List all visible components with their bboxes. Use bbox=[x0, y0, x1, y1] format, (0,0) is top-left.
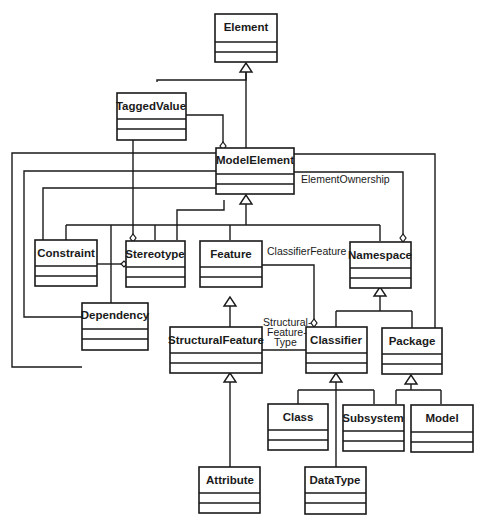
label-classifier-feature: ClassifierFeature bbox=[267, 245, 347, 257]
edge-taggedvalue-element bbox=[157, 70, 246, 82]
class-name: Namespace bbox=[348, 249, 412, 261]
class-structuralfeature[interactable]: StructuralFeature bbox=[168, 327, 264, 373]
class-attribute[interactable]: Attribute bbox=[199, 467, 260, 513]
class-name: Constraint bbox=[37, 247, 95, 259]
edge-modelelement-constraint bbox=[43, 188, 216, 240]
aggregation-diamond bbox=[400, 234, 406, 242]
class-constraint[interactable]: Constraint bbox=[35, 240, 97, 286]
class-name: Class bbox=[283, 411, 314, 423]
class-datatype[interactable]: DataType bbox=[305, 467, 366, 514]
class-class[interactable]: Class bbox=[268, 404, 328, 450]
class-name: Classifier bbox=[310, 334, 362, 346]
class-namespace[interactable]: Namespace bbox=[348, 242, 412, 288]
class-subsystem[interactable]: Subsystem bbox=[342, 405, 404, 451]
class-name: Attribute bbox=[206, 474, 254, 486]
generalization-arrow-element bbox=[240, 63, 252, 72]
class-feature[interactable]: Feature bbox=[200, 241, 262, 287]
edge-taggedvalue-modelelement bbox=[186, 115, 223, 143]
class-name: ModelElement bbox=[216, 154, 294, 166]
edge-modelelement-stereotype bbox=[177, 200, 224, 240]
class-dependency[interactable]: Dependency bbox=[81, 303, 150, 350]
class-name: Dependency bbox=[81, 309, 150, 321]
generalization-arrow-modelelement bbox=[240, 195, 252, 204]
generalization-bus-modelelement bbox=[66, 204, 380, 225]
class-name: Package bbox=[389, 335, 436, 347]
generalization-bus-package bbox=[396, 384, 441, 404]
class-name: Feature bbox=[210, 248, 252, 260]
class-name: Model bbox=[425, 412, 458, 424]
label-element-ownership: ElementOwnership bbox=[301, 173, 390, 185]
class-classifier[interactable]: Classifier bbox=[306, 327, 367, 373]
class-name: TaggedValue bbox=[116, 100, 186, 112]
class-package[interactable]: Package bbox=[382, 328, 442, 374]
class-modelelement[interactable]: ModelElement bbox=[216, 148, 294, 194]
class-name: Subsystem bbox=[342, 412, 403, 424]
uml-class-diagram: Element TaggedValue ModelElement Constra… bbox=[0, 0, 484, 524]
label-structural-feature-type-3: Type bbox=[274, 336, 297, 348]
class-stereotype[interactable]: Stereotype bbox=[125, 241, 185, 287]
edge-classifier-feature bbox=[262, 265, 314, 322]
class-name: DataType bbox=[310, 474, 361, 486]
class-name: Element bbox=[224, 21, 269, 33]
class-element[interactable]: Element bbox=[215, 14, 277, 62]
class-model[interactable]: Model bbox=[411, 405, 473, 452]
generalization-bus-namespace bbox=[336, 296, 412, 328]
generalization-arrow-structuralfeature bbox=[224, 373, 236, 382]
generalization-arrow-package bbox=[405, 375, 417, 384]
class-name: StructuralFeature bbox=[168, 334, 264, 346]
generalization-arrow-classifier bbox=[330, 373, 342, 382]
class-name: Stereotype bbox=[125, 248, 184, 260]
aggregation-diamond bbox=[311, 319, 317, 327]
generalization-arrow-feature bbox=[224, 297, 236, 306]
class-taggedvalue[interactable]: TaggedValue bbox=[116, 93, 186, 140]
